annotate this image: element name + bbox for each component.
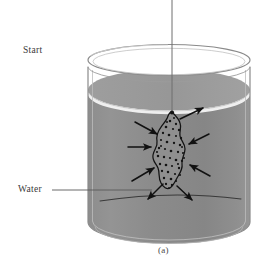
- figure-caption: (a): [158, 246, 169, 255]
- tablet-string-knot: [170, 110, 174, 114]
- beaker-illustration: [0, 0, 266, 269]
- figure-container: Start Water (a): [0, 0, 266, 269]
- label-water: Water: [18, 185, 42, 195]
- label-start: Start: [23, 46, 42, 56]
